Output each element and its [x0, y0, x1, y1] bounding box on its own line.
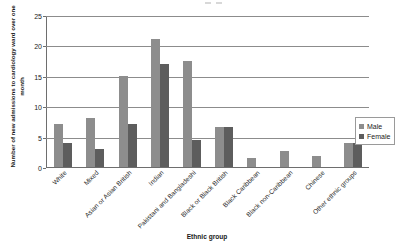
legend-label-female: Female: [367, 133, 390, 140]
bar-male: [312, 156, 321, 167]
bar-chart: Number of new admissions to cardiology w…: [0, 0, 414, 252]
y-tick-label: 15: [34, 73, 42, 80]
x-tick-label-text: Mixed: [83, 169, 101, 187]
bar-male: [54, 124, 63, 167]
y-tick-mark: [43, 107, 46, 108]
y-axis-title: Number of new admissions to cardiology w…: [9, 2, 26, 172]
legend-swatch-female-icon: [359, 134, 364, 139]
y-tick-label: 20: [34, 43, 42, 50]
y-tick-label: 5: [38, 134, 42, 141]
bar-male: [247, 158, 256, 167]
bar-male: [183, 61, 192, 167]
bar-group: [79, 16, 111, 167]
bar-female: [160, 64, 169, 167]
bar-male: [344, 143, 353, 167]
x-tick-label-text: Indian: [147, 169, 165, 187]
x-tick-label-text: Pakistani and Bangladeshi: [136, 169, 197, 230]
y-tick-mark: [43, 46, 46, 47]
bar-male: [86, 118, 95, 167]
y-tick-mark: [43, 138, 46, 139]
x-tick-label-text: Chinese: [303, 169, 325, 191]
y-tick-mark: [43, 77, 46, 78]
y-tick-label: 0: [38, 165, 42, 172]
scan-artifact: [216, 2, 222, 4]
scan-artifact: [205, 2, 211, 4]
chart-legend: Male Female: [355, 117, 395, 145]
legend-item-female: Female: [359, 131, 390, 141]
legend-swatch-male-icon: [359, 124, 364, 129]
bar-group: [47, 16, 79, 167]
y-tick-mark: [43, 16, 46, 17]
x-tick-labels: WhiteMixedAsian or Asian BritishIndianPa…: [47, 169, 369, 227]
y-tick-mark: [43, 168, 46, 169]
x-tick-label-text: White: [51, 169, 68, 186]
bar-male: [119, 76, 128, 167]
legend-label-male: Male: [367, 123, 382, 130]
legend-item-male: Male: [359, 121, 390, 131]
x-axis-title: Ethnic group: [0, 233, 414, 240]
bar-group: [176, 16, 208, 167]
y-tick-label: 10: [34, 104, 42, 111]
bar-group: [111, 16, 143, 167]
y-tick-label: 25: [34, 13, 42, 20]
